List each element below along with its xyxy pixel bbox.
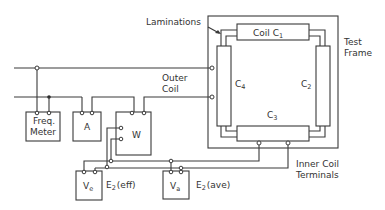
test-frame-label-1: Test bbox=[343, 37, 362, 47]
coil-c4 bbox=[217, 46, 231, 126]
ammeter-label: A bbox=[84, 122, 91, 132]
e2-ave-label: E2(ave) bbox=[196, 180, 230, 192]
outer-coil-label-1: Outer bbox=[162, 73, 188, 83]
laminations-label: Laminations bbox=[146, 17, 201, 27]
epstein-test-circuit-diagram: Laminations Coil C1 Test Frame Outer Coi… bbox=[0, 0, 385, 210]
laminations-arrow-icon bbox=[215, 30, 221, 34]
coil-c2 bbox=[316, 46, 330, 126]
test-frame-label-2: Frame bbox=[344, 48, 373, 58]
coil-c2-label: C2 bbox=[301, 79, 311, 91]
inner-coil-label-1: Inner Coil bbox=[296, 159, 339, 169]
coil-c3-label: C3 bbox=[267, 110, 277, 122]
e2-eff-label: E2(eff) bbox=[106, 180, 136, 192]
inner-coil-label-2: Terminals bbox=[295, 170, 339, 180]
wattmeter-label: W bbox=[132, 130, 141, 140]
inner-coil-terminal-2 bbox=[286, 141, 290, 145]
freq-meter-label-2: Meter bbox=[30, 127, 56, 137]
outer-coil-terminal-1 bbox=[210, 66, 214, 70]
inner-coil-terminal-1 bbox=[257, 141, 261, 145]
outer-coil-terminal-2 bbox=[210, 95, 214, 99]
freq-meter-label-1: Freq. bbox=[33, 116, 55, 126]
outer-coil-label-2: Coil bbox=[162, 84, 179, 94]
coil-c4-label: C4 bbox=[235, 79, 245, 91]
coil-c3 bbox=[237, 126, 309, 141]
junction-top bbox=[35, 66, 39, 70]
